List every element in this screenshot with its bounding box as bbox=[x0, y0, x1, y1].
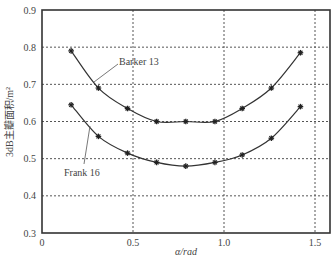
y-axis-ticks: 0.30.40.50.60.70.80.9 bbox=[24, 5, 37, 239]
x-tick-label: 1.0 bbox=[218, 237, 231, 248]
star-marker-icon bbox=[183, 119, 189, 125]
series-line-barker-13 bbox=[71, 51, 300, 123]
star-marker-icon bbox=[212, 160, 218, 166]
y-axis-label: 3dB主瓣面积/m² bbox=[4, 87, 15, 157]
barker-leader-line bbox=[94, 64, 118, 82]
frank-annotation: Frank 16 bbox=[64, 167, 100, 178]
star-marker-icon bbox=[125, 106, 131, 112]
x-axis-label-text: α/rad bbox=[175, 246, 198, 257]
star-marker-icon bbox=[96, 134, 102, 140]
star-marker-icon bbox=[269, 85, 275, 91]
star-marker-icon bbox=[269, 135, 275, 141]
series-line-frank-16 bbox=[71, 105, 300, 166]
y-tick-label: 0.4 bbox=[24, 190, 37, 201]
star-marker-icon bbox=[298, 104, 304, 110]
x-tick-label: 0 bbox=[40, 237, 45, 248]
x-axis-label: α/rad bbox=[175, 246, 198, 257]
star-marker-icon bbox=[125, 150, 131, 156]
star-marker-icon bbox=[68, 102, 74, 108]
x-tick-label: 0.5 bbox=[127, 237, 140, 248]
y-tick-label: 0.8 bbox=[24, 42, 37, 53]
x-tick-label: 1.5 bbox=[309, 237, 322, 248]
y-tick-label: 0.3 bbox=[24, 228, 37, 239]
star-marker-icon bbox=[154, 119, 160, 125]
star-marker-icon bbox=[96, 85, 102, 91]
data-series bbox=[68, 48, 303, 169]
star-marker-icon bbox=[298, 50, 304, 56]
star-marker-icon bbox=[154, 160, 160, 166]
star-marker-icon bbox=[68, 48, 74, 54]
star-marker-icon bbox=[212, 119, 218, 125]
star-marker-icon bbox=[239, 152, 245, 158]
star-marker-icon bbox=[183, 163, 189, 169]
y-tick-label: 0.9 bbox=[24, 5, 37, 16]
y-tick-label: 0.7 bbox=[24, 79, 37, 90]
y-tick-label: 0.5 bbox=[24, 153, 37, 164]
barker-annotation: Barker 13 bbox=[119, 56, 159, 67]
star-marker-icon bbox=[239, 106, 245, 112]
line-chart: 0.30.40.50.60.70.80.9 00.51.01.5 Barker … bbox=[0, 0, 335, 266]
y-tick-label: 0.6 bbox=[24, 116, 37, 127]
